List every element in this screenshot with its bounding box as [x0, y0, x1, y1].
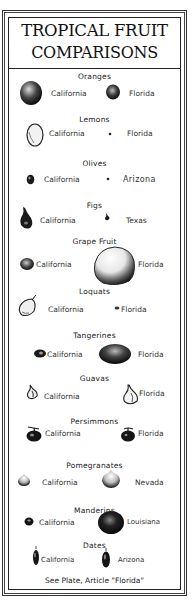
title-line-2: COMPARISONS	[8, 42, 181, 64]
persimmons-left-label: California	[45, 429, 81, 438]
pomegranates-left-label: California	[42, 478, 78, 487]
grapefruit-right-label: Florida	[138, 260, 164, 269]
figs-right-label: Texas	[126, 216, 147, 225]
persimmon-florida-icon	[119, 426, 137, 442]
guavas-right-label: Florida	[139, 389, 165, 398]
persimmons-right-label: Florida	[138, 429, 164, 438]
olive-arizona-icon	[106, 177, 110, 181]
loquat-florida-icon	[114, 306, 120, 310]
persimmon-california-icon	[25, 424, 45, 442]
lemons-left-label: California	[49, 129, 85, 138]
section-title-olives: Olives	[8, 159, 181, 168]
manderins-right-label: Louisiana	[127, 518, 160, 526]
tangerine-california-icon	[33, 349, 47, 358]
lemon-florida-icon	[108, 132, 112, 136]
pomegranates-right-label: Nevada	[135, 478, 164, 487]
title-divider	[8, 68, 181, 69]
olives-right-label: Arizona	[123, 175, 156, 184]
section-title-manderins: Manderins	[8, 506, 181, 515]
guava-california-icon	[25, 384, 39, 400]
lemon-california-icon	[25, 122, 45, 148]
lemons-right-label: Florida	[127, 129, 153, 138]
section-title-pomegranates: Pomegranates	[8, 461, 181, 470]
tangerines-left-label: California	[47, 350, 83, 359]
guava-florida-icon	[121, 384, 140, 406]
date-arizona-icon	[101, 548, 111, 568]
tangerine-florida-icon	[98, 343, 132, 365]
pomegranate-nevada-icon	[101, 470, 121, 489]
manderins-left-label: California	[39, 518, 75, 527]
dates-right-label: Arizona	[118, 556, 144, 564]
pomegranate-california-icon	[17, 474, 31, 487]
oranges-left-label: California	[51, 89, 87, 98]
tangerines-right-label: Florida	[138, 350, 164, 359]
orange-california-icon	[19, 80, 43, 106]
olive-california-icon	[26, 174, 35, 185]
loquat-california-icon	[17, 294, 39, 318]
section-title-tangerines: Tangerines	[8, 331, 181, 340]
section-title-guavas: Guavas	[8, 374, 181, 383]
loquats-right-label: Florida	[121, 305, 147, 314]
oranges-right-label: Florida	[129, 89, 155, 98]
olives-left-label: California	[44, 175, 80, 184]
page-title: TROPICAL FRUIT COMPARISONS	[8, 20, 181, 64]
fig-california-icon	[18, 206, 35, 230]
dates-left-label: California	[41, 556, 74, 564]
orange-florida-icon	[105, 84, 121, 100]
grapefruit-california-icon	[19, 257, 35, 271]
footer-note: See Plate, Article "Florida"	[8, 576, 181, 585]
guavas-left-label: California	[44, 392, 80, 401]
figs-left-label: California	[40, 216, 76, 225]
grapefruit-florida-icon	[89, 245, 137, 287]
loquats-left-label: California	[48, 305, 84, 314]
grapefruit-left-label: California	[36, 260, 72, 269]
fig-texas-icon	[103, 213, 111, 221]
title-line-1: TROPICAL FRUIT	[21, 21, 167, 40]
date-california-icon	[32, 546, 40, 566]
manderin-louisiana-icon	[97, 510, 125, 535]
manderin-california-icon	[24, 517, 34, 526]
